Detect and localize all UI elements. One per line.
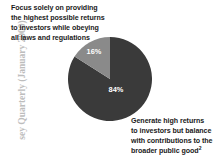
callout-line: to investors while obeying <box>11 23 105 33</box>
pie-slice-large-value: 84% <box>109 85 124 94</box>
footnote-marker: 2 <box>199 145 202 151</box>
pie-slice-small-value: 16% <box>87 47 102 56</box>
callout-line: to investors but balance <box>131 126 213 136</box>
callout-label-large-slice: Generate high returns to investors but b… <box>131 116 213 156</box>
callout-line: broader public good2 <box>131 146 213 156</box>
pie-chart: 84% 16% <box>68 37 152 121</box>
callout-line-text: broader public good <box>131 147 199 155</box>
callout-line: the highest possible returns <box>11 13 105 23</box>
callout-line: Generate high returns <box>131 116 213 126</box>
figure-container: sey Quarterly (January 2000) Focus solel… <box>0 0 222 157</box>
callout-line: Focus solely on providing <box>11 3 105 13</box>
